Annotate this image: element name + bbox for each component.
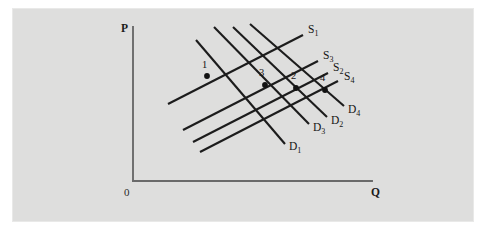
figure-frame bbox=[12, 8, 474, 222]
